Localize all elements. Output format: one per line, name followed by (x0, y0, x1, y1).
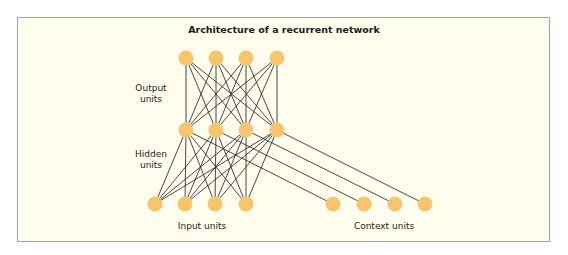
input-unit-node (148, 197, 163, 212)
network-graph (0, 0, 568, 255)
connection-line (246, 130, 395, 204)
context-units-label: Context units (334, 221, 434, 232)
hidden-unit-node (239, 123, 254, 138)
output-unit-node (179, 51, 194, 66)
hidden-unit-node (209, 123, 224, 138)
input-unit-node (208, 197, 223, 212)
context-unit-node (418, 197, 433, 212)
output-units-label: Output units (124, 83, 178, 105)
connection-line (185, 130, 186, 204)
input-units-label: Input units (160, 221, 244, 232)
connection-line (246, 130, 277, 204)
output-unit-node (270, 51, 285, 66)
hidden-units-label: Hidden units (124, 149, 178, 171)
output-unit-node (209, 51, 224, 66)
input-unit-node (239, 197, 254, 212)
nodes (148, 51, 433, 212)
input-unit-node (178, 197, 193, 212)
context-unit-node (357, 197, 372, 212)
hidden-unit-node (270, 123, 285, 138)
connection-line (216, 130, 364, 204)
context-unit-node (326, 197, 341, 212)
connection-line (186, 130, 215, 204)
output-unit-node (239, 51, 254, 66)
edges (155, 58, 425, 204)
hidden-unit-node (179, 123, 194, 138)
context-unit-node (388, 197, 403, 212)
connection-line (277, 130, 425, 204)
